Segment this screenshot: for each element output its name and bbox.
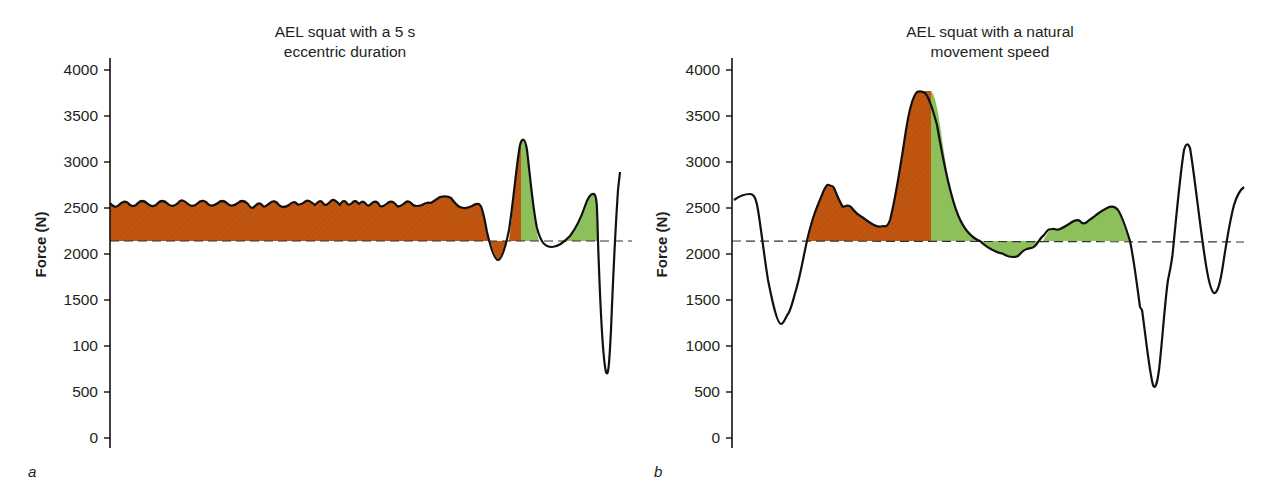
chart-panel-a: AEL squat with a 5 s eccentric duration …	[0, 0, 640, 502]
baseline-dashed-line	[732, 241, 1244, 242]
force-curve	[110, 140, 620, 374]
eccentric-area	[808, 91, 931, 241]
chart-panel-b: AEL squat with a natural movement speed …	[640, 0, 1281, 502]
y-axis-ticks-a	[104, 70, 110, 438]
plot-area-a	[0, 0, 640, 502]
concentric-area-2	[1043, 207, 1130, 241]
plot-area-b	[640, 0, 1281, 502]
y-axis-ticks-b	[726, 70, 732, 438]
concentric-area	[931, 91, 980, 241]
